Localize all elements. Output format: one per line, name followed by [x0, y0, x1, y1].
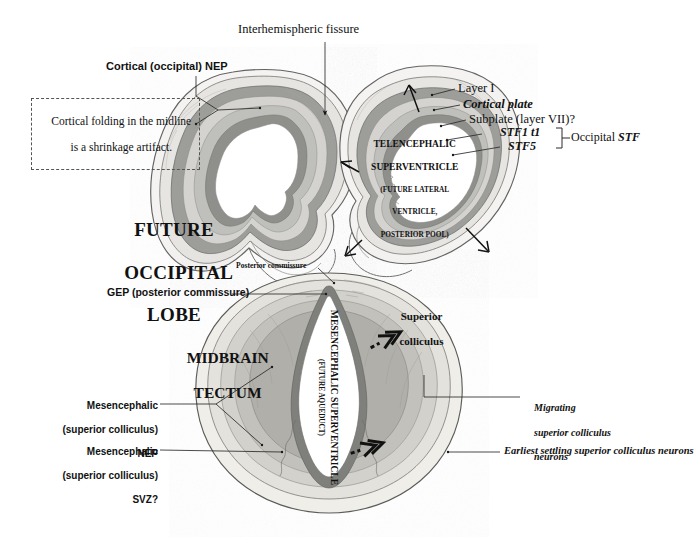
occipital-stf-italic: STF — [618, 130, 640, 144]
shrinkage-note-line-1: Cortical folding in the midline — [51, 115, 191, 127]
superior-colliculus-line-1: Superior — [401, 310, 443, 322]
mes-svz-line-1: Mesencephalic — [87, 446, 158, 457]
migrating-line-2: superior colliculus — [534, 427, 611, 438]
telencephalic-line-2: SUPERVENTRICLE — [371, 162, 458, 172]
label-cortical-plate: Cortical plate — [463, 97, 533, 111]
label-gep-posterior-commissure: GEP (posterior commissure) — [107, 287, 249, 299]
label-posterior-commissure: Posterior commissure — [236, 262, 306, 271]
label-cortical-occipital-nep: Cortical (occipital) NEP — [106, 60, 228, 72]
label-migrating-superior-colliculus-neurons: Migrating superior colliculus neurons — [524, 390, 634, 475]
future-occipital-line-3: LOBE — [147, 304, 201, 325]
label-subplate: Subplate (layer VII)? — [469, 112, 575, 126]
label-mesencephalic-svz: Mesencephalic (superior colliculus) SVZ? — [22, 434, 158, 518]
midbrain-line-1: MIDBRAIN — [187, 349, 269, 366]
superior-colliculus-line-2: colliculus — [399, 335, 443, 347]
label-earliest-settling-neurons: Earliest settling superior colliculus ne… — [504, 445, 694, 457]
mes-nep-line-1: Mesencephalic — [87, 400, 158, 411]
telencephalic-sub-1: (FUTURE LATERAL — [380, 185, 449, 194]
future-occipital-line-2: OCCIPITAL — [124, 262, 233, 283]
mesencephalic-superventricle-sub: (FUTURE AQUEDUCT) — [318, 359, 326, 436]
telencephalic-sub-2: VENTRICLE, — [392, 207, 437, 216]
shrinkage-artifact-note: Cortical folding in the midline is a shr… — [31, 98, 200, 170]
label-stf1-t1: STF1 t1 — [500, 126, 540, 139]
label-occipital-stf: Occipital STF — [571, 131, 640, 144]
telencephalic-line-1: TELENCEPHALIC — [373, 139, 455, 149]
label-mesencephalic-superventricle: MESENCEPHALIC SUPERVENTRICLE (FUTURE AQU… — [317, 305, 340, 490]
future-occipital-line-1: FUTURE — [134, 219, 214, 240]
mes-svz-line-3: SVZ? — [132, 494, 158, 505]
mesencephalic-superventricle-line-1: MESENCEPHALIC SUPERVENTRICLE — [329, 310, 340, 485]
telencephalic-sub-3: POSTERIOR POOL) — [381, 230, 449, 239]
midbrain-line-2: TECTUM — [194, 384, 262, 401]
label-telencephalic-superventricle: TELENCEPHALIC SUPERVENTRICLE (FUTURE LAT… — [357, 128, 463, 251]
mes-svz-line-2: (superior colliculus) — [62, 470, 158, 481]
shrinkage-note-line-2: is a shrinkage artifact. — [70, 141, 172, 153]
migrating-line-1: Migrating — [534, 402, 576, 413]
label-layer-i: Layer I — [458, 81, 494, 95]
label-midbrain-tectum: MIDBRAIN TECTUM — [165, 331, 275, 420]
label-future-occipital-lobe: FUTURE OCCIPITAL LOBE — [104, 198, 224, 347]
label-superior-colliculus: Superior colliculus — [377, 297, 455, 360]
label-stf5: STF5 — [508, 140, 536, 153]
occipital-stf-prefix: Occipital — [571, 130, 618, 144]
label-interhemispheric-fissure: Interhemispheric fissure — [238, 22, 359, 36]
